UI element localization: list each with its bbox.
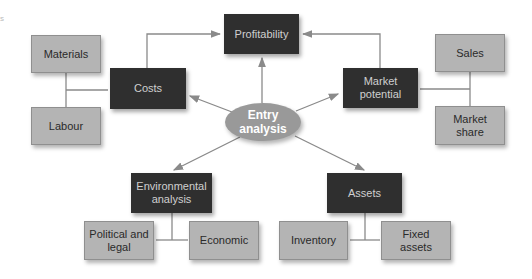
- market-share-line1: Market: [453, 113, 487, 126]
- materials-node: Materials: [31, 35, 101, 73]
- political-line1: Political and: [89, 228, 148, 241]
- costs-label: Costs: [134, 82, 162, 95]
- assets-node: Assets: [327, 173, 402, 213]
- costs-node: Costs: [110, 68, 186, 109]
- market-share-line2: share: [456, 126, 484, 139]
- center-line1: Entry: [239, 108, 286, 122]
- economic-label: Economic: [200, 234, 248, 247]
- entry-analysis-center: Entry analysis: [225, 103, 301, 141]
- labour-label: Labour: [49, 120, 83, 133]
- assets-label: Assets: [348, 187, 381, 200]
- inventory-label: Inventory: [291, 234, 336, 247]
- environmental-analysis-node: Environmental analysis: [131, 173, 212, 213]
- inventory-node: Inventory: [279, 221, 348, 260]
- sales-label: Sales: [456, 47, 484, 60]
- political-line2: legal: [107, 241, 130, 254]
- market-potential-node: Market potential: [343, 68, 418, 108]
- fixed-assets-node: Fixed assets: [381, 221, 451, 260]
- profitability-label: Profitability: [235, 28, 289, 41]
- fixed-assets-line1: Fixed: [403, 228, 430, 241]
- materials-label: Materials: [44, 48, 89, 61]
- fixed-assets-line2: assets: [400, 241, 432, 254]
- profitability-node: Profitability: [224, 14, 299, 54]
- market-potential-line1: Market: [364, 75, 398, 88]
- labour-node: Labour: [31, 107, 101, 145]
- sales-node: Sales: [435, 34, 505, 72]
- environmental-line2: analysis: [152, 193, 192, 206]
- market-share-node: Market share: [435, 106, 505, 145]
- political-legal-node: Political and legal: [84, 221, 154, 260]
- center-line2: analysis: [239, 122, 286, 136]
- economic-node: Economic: [189, 221, 259, 260]
- environmental-line1: Environmental: [136, 180, 206, 193]
- market-potential-line2: potential: [360, 88, 402, 101]
